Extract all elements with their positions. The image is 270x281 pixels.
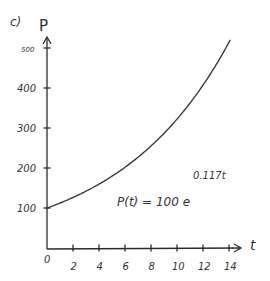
panel-label: c) — [10, 15, 21, 29]
x-tick-label: 14 — [224, 261, 237, 272]
y-ticks: 100200300400500 — [17, 46, 51, 214]
x-tick-label: 2 — [71, 261, 77, 272]
y-tick-label: 200 — [17, 163, 36, 174]
x-tick-label: 8 — [149, 261, 155, 272]
y-axis-label: P — [39, 17, 48, 35]
formula-text: P(t) = 100 e — [117, 195, 190, 209]
chart: c) P t 02468101214 100200300400500 P(t) … — [0, 0, 270, 281]
axes — [43, 37, 241, 252]
x-tick-label: 4 — [97, 261, 103, 272]
y-tick-label: 400 — [17, 83, 36, 94]
x-tick-label: 6 — [123, 261, 129, 272]
formula-annotation: P(t) = 100 e — [117, 195, 190, 209]
y-tick-label: 300 — [17, 123, 36, 134]
formula-exponent: 0.117t — [193, 170, 227, 181]
x-tick-label: 0 — [44, 254, 50, 265]
y-tick-label: 100 — [17, 203, 36, 214]
exponential-curve — [47, 40, 230, 208]
x-axis-label: t — [250, 237, 256, 253]
x-tick-label: 12 — [198, 261, 211, 272]
y-tick-label: 500 — [21, 46, 35, 54]
x-axis-line — [47, 248, 240, 249]
x-tick-label: 10 — [172, 261, 185, 272]
